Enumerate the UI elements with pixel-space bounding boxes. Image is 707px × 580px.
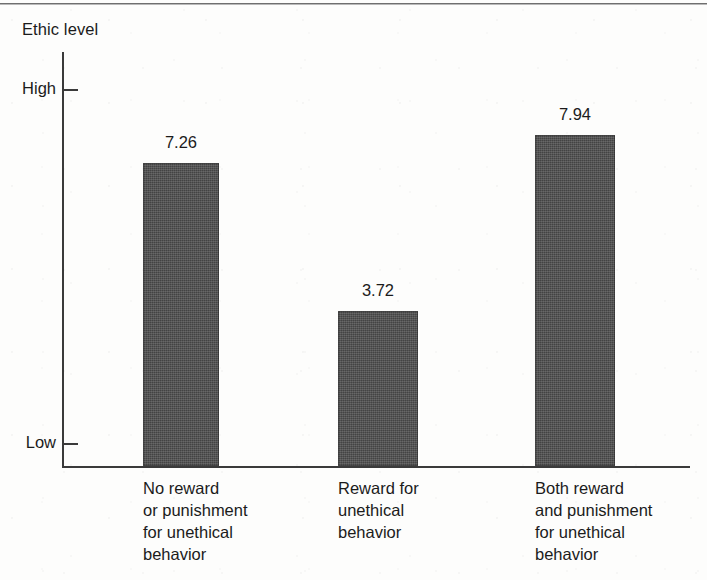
category-label-line: behavior bbox=[338, 521, 419, 543]
category-label-line: for unethical bbox=[535, 521, 652, 543]
bar-2 bbox=[338, 311, 418, 466]
category-label-line: and punishment bbox=[535, 499, 652, 521]
category-label-3: Both rewardand punishmentfor unethicalbe… bbox=[535, 477, 652, 565]
bar-3 bbox=[535, 135, 615, 466]
bar-chart-figure: Ethic level HighLow 7.26No rewardor puni… bbox=[0, 0, 707, 580]
category-label-line: behavior bbox=[535, 543, 652, 565]
category-label-line: No reward bbox=[143, 477, 248, 499]
category-label-line: unethical bbox=[338, 499, 419, 521]
bar-value-label-1: 7.26 bbox=[143, 133, 219, 152]
bar-1 bbox=[143, 163, 219, 466]
category-label-line: Reward for bbox=[338, 477, 419, 499]
category-label-line: or punishment bbox=[143, 499, 248, 521]
category-label-1: No rewardor punishmentfor unethicalbehav… bbox=[143, 477, 248, 565]
bar-value-label-3: 7.94 bbox=[535, 105, 615, 124]
plot-area: 7.26No rewardor punishmentfor unethicalb… bbox=[0, 0, 707, 580]
category-label-line: for unethical bbox=[143, 521, 248, 543]
category-label-2: Reward forunethicalbehavior bbox=[338, 477, 419, 543]
bar-value-label-2: 3.72 bbox=[338, 281, 418, 300]
category-label-line: behavior bbox=[143, 543, 248, 565]
category-label-line: Both reward bbox=[535, 477, 652, 499]
